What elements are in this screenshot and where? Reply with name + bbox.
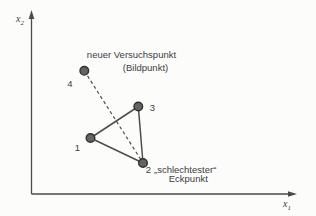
simplex-edges — [91, 107, 144, 164]
point-3 — [134, 102, 143, 111]
edge-2-3 — [138, 107, 143, 164]
point-4 — [80, 67, 89, 76]
x-axis-arrowhead — [288, 191, 297, 197]
point-1 — [86, 134, 95, 143]
annotation-bildpunkt: (Bildpunkt) — [123, 62, 168, 73]
annotations: neuer Versuchspunkt(Bildpunkt)„schlechte… — [87, 49, 216, 184]
point-label-3: 3 — [150, 102, 155, 113]
x-axis-label: x1 — [282, 198, 291, 212]
figure-svg: x2x1 1234 neuer Versuchspunkt(Bildpunkt)… — [0, 0, 316, 216]
y-axis-label-subscript: 2 — [20, 19, 24, 27]
point-label-4: 4 — [67, 78, 72, 89]
annotation-new-trial-point: neuer Versuchspunkt — [87, 49, 177, 60]
x-axis-label-subscript: 1 — [287, 204, 291, 212]
point-label-1: 1 — [75, 142, 80, 153]
axes: x2x1 — [15, 10, 297, 212]
y-axis-arrowhead — [29, 10, 35, 19]
figure-page: x2x1 1234 neuer Versuchspunkt(Bildpunkt)… — [0, 0, 316, 216]
annotation-worst-vertex-eckpunkt: Eckpunkt — [169, 173, 208, 184]
edge-1-2 — [91, 138, 144, 163]
edge-3-1 — [91, 107, 139, 139]
point-label-2: 2 — [146, 164, 151, 175]
y-axis-label: x2 — [15, 13, 24, 27]
